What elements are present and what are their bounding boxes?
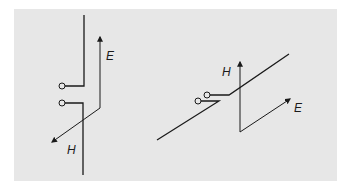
left-lower-conductor <box>65 103 83 175</box>
right-e-label: E <box>294 101 303 115</box>
left-upper-feed-terminal <box>59 83 65 89</box>
antenna-field-diagram: E H H E <box>0 0 347 190</box>
left-h-field-arrow <box>52 108 100 142</box>
left-lower-feed-terminal <box>59 100 65 106</box>
right-lower-feed-terminal <box>195 98 201 104</box>
left-e-label: E <box>106 49 115 63</box>
right-h-label: H <box>222 65 231 79</box>
left-upper-conductor <box>65 15 84 86</box>
right-lower-conductor <box>157 101 219 140</box>
right-dipole-diagram: H E <box>157 54 303 140</box>
right-upper-feed-terminal <box>204 92 210 98</box>
left-h-label: H <box>67 143 76 157</box>
right-e-field-arrow <box>240 99 290 132</box>
left-dipole-diagram: E H <box>52 15 115 175</box>
